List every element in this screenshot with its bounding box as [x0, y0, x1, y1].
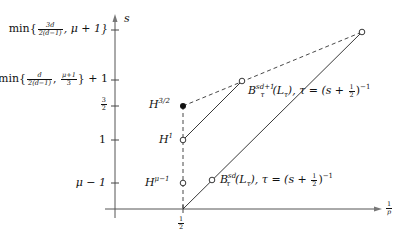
lower-curve-tail: ), τ = (s +	[251, 173, 311, 186]
three-halves-den: 2	[101, 105, 107, 112]
h32-sup: 3/2	[159, 97, 170, 105]
y-tick-label-mu-minus-one: μ − 1	[76, 177, 106, 188]
open-point-hmu	[180, 180, 186, 186]
upper-curve-sub: τ	[261, 91, 265, 99]
hmu-sup: μ−1	[155, 175, 170, 183]
point-label-h32: H3/2	[149, 99, 170, 110]
lower-curve-sub: τ	[226, 180, 230, 188]
point-label-hmu: Hμ−1	[145, 177, 169, 188]
filled-point-h32	[180, 103, 186, 109]
y-tick-label-three-halves: 32	[100, 97, 108, 111]
diagram: s 1p 12 min{3d2(d−1), μ + 1} min{d2(d−1)…	[0, 0, 397, 241]
y-axis-arrow-icon	[113, 14, 118, 22]
upper-frac2-den: 3	[61, 80, 77, 87]
x-label-den: p	[386, 209, 392, 216]
y-tick-label-one: 1	[99, 134, 106, 145]
lower-half-den: 2	[311, 181, 317, 188]
lower-curve-arg: (L	[235, 173, 247, 186]
upper-rest: } + 1	[78, 72, 108, 85]
curve-label-upper: Bsd+1τ(Lτ), τ = (s + 12)−1	[248, 84, 370, 98]
top-rest: , μ + 1}	[64, 22, 108, 35]
open-point-h1	[180, 137, 186, 143]
upper-sep: ,	[53, 72, 60, 85]
y-tick-label-top: min{3d2(d−1), μ + 1}	[9, 22, 108, 36]
hmu-base: H	[145, 176, 155, 189]
upper-solid-line	[183, 81, 242, 140]
open-point-top	[359, 29, 365, 35]
open-point-upper-curve	[239, 78, 245, 84]
h32-base: H	[149, 98, 159, 111]
upper-curve-tail: ), τ = (s +	[288, 84, 348, 97]
upper-curve-arg: (L	[272, 84, 284, 97]
top-frac-den: 2(d−1)	[38, 30, 63, 37]
h1-sup: 1	[169, 132, 173, 140]
upper-half-den: 2	[349, 92, 355, 99]
x-tick-label-half: 12	[177, 216, 185, 230]
open-point-lower-curve	[209, 177, 215, 183]
y-axis-label: s	[124, 13, 130, 24]
h1-base: H	[159, 133, 169, 146]
y-tick-label-upper: min{d2(d−1), μ+13} + 1	[0, 72, 108, 86]
upper-curve-exp: −1	[360, 83, 370, 91]
upper-curve-base: B	[248, 84, 256, 97]
x-axis-arrow-icon	[374, 207, 382, 212]
upper-prefix: min{	[0, 72, 26, 85]
upper-frac1-den: 2(d−1)	[27, 80, 52, 87]
curve-label-lower: Bsdτ(Lτ), τ = (s + 12)−1	[220, 173, 333, 187]
lower-curve-exp: −1	[323, 172, 333, 180]
x-tick-den: 2	[178, 224, 184, 231]
top-prefix: min{	[9, 22, 37, 35]
x-axis-label: 1p	[385, 201, 393, 215]
point-label-h1: H1	[159, 134, 173, 145]
